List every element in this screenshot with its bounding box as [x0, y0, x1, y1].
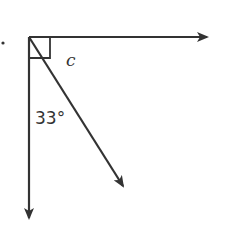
angle-diagram: c 33° [0, 0, 233, 231]
bullet-dot [1, 41, 4, 44]
angle-label-c: c [66, 50, 76, 70]
angle-label-33: 33° [35, 108, 65, 128]
